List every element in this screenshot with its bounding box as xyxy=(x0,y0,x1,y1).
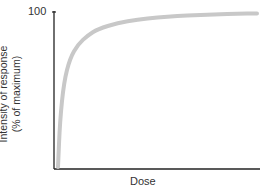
dose-response-chart xyxy=(0,0,269,193)
x-axis-label: Dose xyxy=(130,175,156,187)
y-tick-label-100: 100 xyxy=(28,5,46,17)
y-axis-label: Intensity of response (% of maximum) xyxy=(0,29,23,159)
dose-response-curve xyxy=(58,14,257,167)
